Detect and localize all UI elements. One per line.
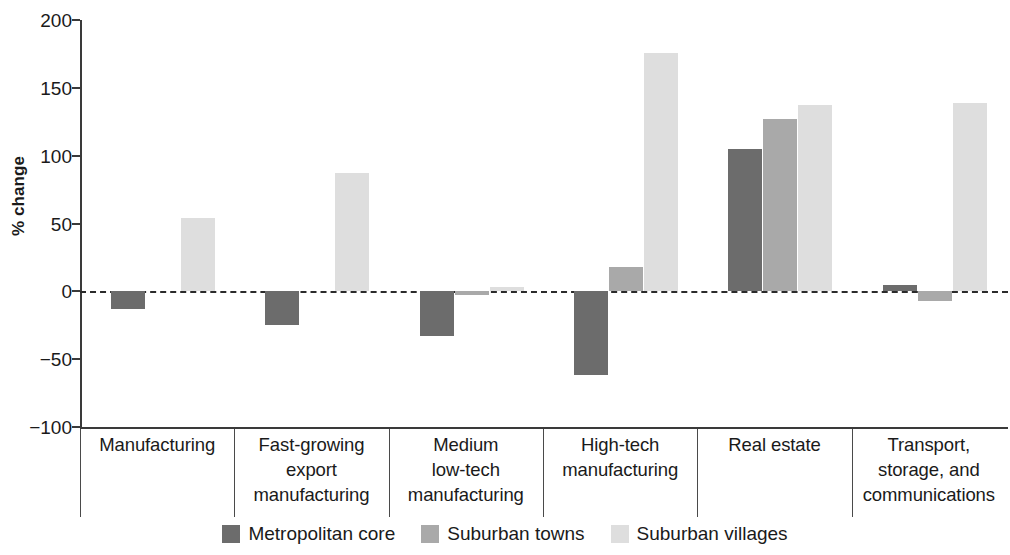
category-separator	[543, 429, 544, 517]
category-separator	[697, 429, 698, 517]
plot-area	[82, 20, 1008, 427]
y-tickmark-50	[72, 223, 80, 225]
y-tickmark-100	[72, 155, 80, 157]
category-label-cell: Fast-growing export manufacturing	[234, 429, 388, 517]
legend-swatch-icon	[421, 525, 439, 543]
y-tick-150: 150	[10, 78, 72, 97]
bar-group	[854, 20, 1008, 427]
y-tickmark-0	[72, 290, 80, 292]
y-tick-neg50: −50	[10, 350, 72, 369]
legend-swatch-icon	[611, 525, 629, 543]
y-tick-0: 0	[10, 282, 72, 301]
legend-label: Suburban towns	[447, 524, 584, 543]
category-label-cell: Real estate	[697, 429, 851, 517]
bar	[883, 285, 917, 292]
category-label-cell: Transport, storage, and communications	[852, 429, 1006, 517]
category-label: Fast-growing export manufacturing	[254, 432, 370, 507]
y-tick-neg100: −100	[10, 418, 72, 437]
legend-label: Suburban villages	[637, 524, 788, 543]
category-separator	[389, 429, 390, 517]
category-label: Transport, storage, and communications	[863, 432, 995, 507]
bar	[953, 103, 987, 292]
bar-group	[699, 20, 853, 427]
bar	[265, 291, 299, 325]
category-label-cell: High-tech manufacturing	[543, 429, 697, 517]
bar	[644, 53, 678, 292]
y-tickmark-neg100	[72, 426, 80, 428]
bar	[918, 291, 952, 300]
bar	[798, 105, 832, 291]
y-axis-tick-labels: 200 150 100 50 0 −50 −100	[0, 0, 72, 555]
category-separator	[852, 429, 853, 517]
chart-legend: Metropolitan coreSuburban townsSuburban …	[0, 524, 1010, 543]
category-label: High-tech manufacturing	[562, 432, 678, 482]
bar-chart-figure: % change 200 150 100 50 0 −50 −100 Manuf…	[0, 0, 1010, 555]
category-label: Real estate	[728, 432, 820, 457]
y-tickmark-neg50	[72, 358, 80, 360]
bar	[609, 267, 643, 291]
y-tick-200: 200	[10, 11, 72, 30]
bar-group	[391, 20, 545, 427]
category-label-row: ManufacturingFast-growing export manufac…	[80, 429, 1008, 517]
y-tickmark-150	[72, 87, 80, 89]
bar	[490, 287, 524, 291]
y-tick-100: 100	[10, 146, 72, 165]
bar	[574, 291, 608, 375]
category-label-cell: Manufacturing	[80, 429, 234, 517]
category-label: Medium low-tech manufacturing	[408, 432, 524, 507]
y-tick-50: 50	[10, 214, 72, 233]
legend-item: Suburban towns	[421, 524, 584, 543]
legend-item: Metropolitan core	[222, 524, 395, 543]
bar	[728, 149, 762, 291]
bar	[181, 218, 215, 291]
bar	[455, 291, 489, 295]
bar	[111, 291, 145, 309]
bar	[335, 173, 369, 291]
category-label-cell: Medium low-tech manufacturing	[389, 429, 543, 517]
bar-group	[236, 20, 390, 427]
legend-label: Metropolitan core	[248, 524, 395, 543]
legend-item: Suburban villages	[611, 524, 788, 543]
legend-swatch-icon	[222, 525, 240, 543]
bar-group	[545, 20, 699, 427]
bar-group	[82, 20, 236, 427]
category-separator	[234, 429, 235, 517]
category-separator	[80, 429, 81, 517]
y-tickmark-200	[72, 19, 80, 21]
bar	[420, 291, 454, 336]
bar	[763, 119, 797, 291]
category-label: Manufacturing	[99, 432, 215, 457]
